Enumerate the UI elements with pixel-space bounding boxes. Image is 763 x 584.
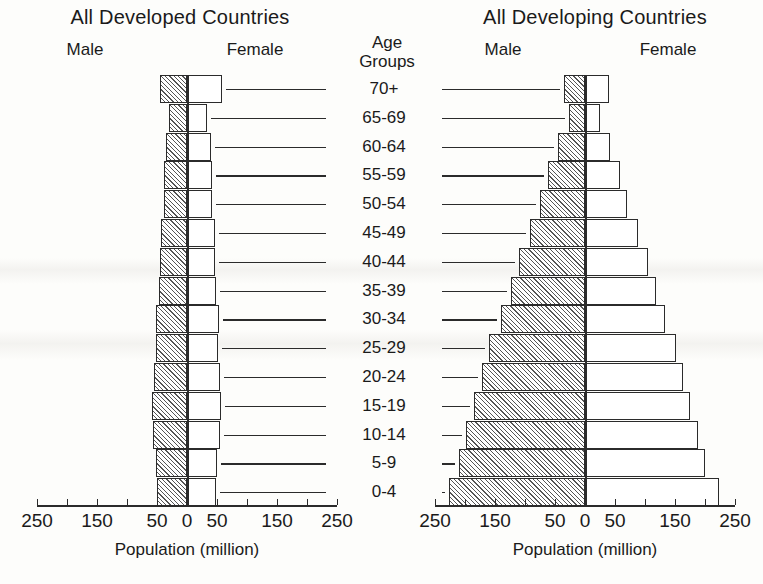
right-female-bar <box>585 392 690 420</box>
left-axis-tick <box>247 499 248 505</box>
leader-line-left <box>226 89 326 90</box>
leader-line-left <box>216 204 326 205</box>
right-male-bar <box>459 449 585 477</box>
left-male-bar <box>152 392 187 420</box>
population-pyramid-figure: All Developed Countries Male Female Age … <box>0 0 763 584</box>
pyramid-row <box>423 449 763 477</box>
left-axis-tick <box>37 499 38 505</box>
left-axis-tick <box>127 499 128 505</box>
right-male-bar <box>489 334 585 362</box>
left-male-bar <box>169 104 187 132</box>
leader-line-left <box>219 233 326 234</box>
left-axis-tick-label: 50 <box>187 510 247 532</box>
left-axis-title: Population (million) <box>57 540 317 560</box>
pyramid-row <box>423 392 763 420</box>
right-axis-tick <box>615 499 616 505</box>
leader-line-left <box>211 118 326 119</box>
left-male-bar <box>166 133 187 161</box>
right-male-bar <box>519 248 585 276</box>
right-axis-tick <box>705 499 706 505</box>
right-male-bar <box>558 133 585 161</box>
right-male-bar <box>501 305 585 333</box>
left-male-bar <box>153 421 187 449</box>
right-axis-tick <box>585 499 586 505</box>
right-male-label: Male <box>448 40 558 60</box>
left-male-bar <box>161 219 187 247</box>
left-zero-line <box>187 75 189 507</box>
right-axis-tick <box>645 499 646 505</box>
right-female-label: Female <box>608 40 728 60</box>
left-male-bar <box>157 478 187 506</box>
leader-line-left <box>220 492 326 493</box>
pyramid-row <box>423 277 763 305</box>
left-male-bar <box>164 161 187 189</box>
right-female-bar <box>585 305 665 333</box>
pyramid-row <box>423 190 763 218</box>
right-axis: 25015050050150250Population (million) <box>423 505 763 584</box>
right-male-bar <box>474 392 585 420</box>
leader-line-left <box>216 175 326 176</box>
left-axis-tick-label: 250 <box>307 510 367 532</box>
pyramid-row <box>423 104 763 132</box>
right-female-bar <box>585 421 698 449</box>
left-axis-tick-label: 150 <box>247 510 307 532</box>
right-male-bar <box>530 219 585 247</box>
right-male-bar <box>564 75 585 103</box>
right-female-bar <box>585 75 609 103</box>
pyramid-row <box>423 334 763 362</box>
right-axis-tick <box>525 499 526 505</box>
left-male-bar <box>164 190 187 218</box>
left-axis-tick-label: 250 <box>7 510 67 532</box>
leader-line-left <box>221 463 326 464</box>
left-male-bar <box>159 277 187 305</box>
right-male-bar <box>540 190 585 218</box>
left-axis-tick-label: 150 <box>67 510 127 532</box>
right-axis-tick-label: 50 <box>585 510 645 532</box>
right-axis-title: Population (million) <box>455 540 715 560</box>
right-pyramid-plot <box>423 75 763 507</box>
left-axis: 25015050050150250Population (million) <box>0 505 340 584</box>
right-male-bar <box>511 277 585 305</box>
leader-line-left <box>219 262 326 263</box>
right-axis-tick <box>675 499 676 505</box>
age-groups-header: Age Groups <box>332 33 442 71</box>
right-male-bar <box>548 161 585 189</box>
left-male-bar <box>156 449 187 477</box>
right-female-bar <box>585 334 676 362</box>
right-female-bar <box>585 104 600 132</box>
right-axis-tick-label: 250 <box>405 510 465 532</box>
right-female-bar <box>585 363 683 391</box>
pyramid-row <box>423 133 763 161</box>
right-female-bar <box>585 248 648 276</box>
left-male-label: Male <box>30 40 140 60</box>
right-axis-tick-label: 150 <box>645 510 705 532</box>
right-axis-line <box>435 505 735 507</box>
pyramid-row <box>423 219 763 247</box>
left-male-bar <box>154 363 187 391</box>
leader-line-left <box>222 348 326 349</box>
right-panel-title: All Developing Countries <box>440 6 750 29</box>
pyramid-row <box>423 305 763 333</box>
right-female-bar <box>585 161 620 189</box>
right-zero-line <box>585 75 587 507</box>
left-axis-line <box>37 505 337 507</box>
right-female-bar <box>585 219 638 247</box>
right-axis-tick <box>435 499 436 505</box>
left-male-bar <box>156 305 187 333</box>
leader-line-left <box>224 435 326 436</box>
right-axis-tick <box>495 499 496 505</box>
leader-line-left <box>220 291 326 292</box>
left-axis-tick <box>307 499 308 505</box>
right-axis-tick <box>465 499 466 505</box>
right-female-bar <box>585 449 705 477</box>
right-male-bar <box>569 104 585 132</box>
age-groups-header-line1: Age <box>332 33 442 52</box>
left-male-bar <box>160 75 187 103</box>
leader-line-left <box>215 147 326 148</box>
leader-line-left <box>225 406 326 407</box>
pyramid-row <box>423 161 763 189</box>
right-axis-tick <box>555 499 556 505</box>
right-female-bar <box>585 277 656 305</box>
leader-line-left <box>224 377 326 378</box>
pyramid-row <box>423 75 763 103</box>
